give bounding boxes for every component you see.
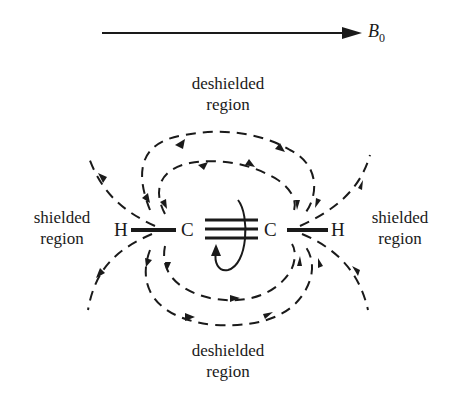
b0-arrow-icon: [102, 27, 362, 39]
b0-label: B0: [368, 21, 385, 46]
b0-subscript: 0: [379, 31, 385, 45]
region-label-right: shielded region: [360, 207, 440, 249]
region-top-line2: region: [178, 94, 278, 115]
region-bottom-line1: deshielded: [178, 340, 278, 361]
b0-symbol: B: [368, 21, 379, 41]
electron-circulation-icon: [211, 200, 245, 270]
atom-c-left: C: [181, 220, 194, 240]
region-label-bottom: deshielded region: [178, 340, 278, 382]
atom-c-right: C: [264, 220, 277, 240]
region-label-left: shielded region: [22, 207, 102, 249]
atom-h-right: H: [331, 220, 345, 240]
region-left-line2: region: [22, 228, 102, 249]
triple-bond: [205, 220, 258, 238]
region-bottom-line2: region: [178, 361, 278, 382]
region-left-line1: shielded: [22, 207, 102, 228]
acetylene-anisotropy-diagram: B0 deshielded region deshielded region s…: [0, 0, 456, 405]
region-right-line2: region: [360, 228, 440, 249]
region-right-line1: shielded: [360, 207, 440, 228]
atom-h-left: H: [114, 220, 128, 240]
region-label-top: deshielded region: [178, 73, 278, 115]
region-top-line1: deshielded: [178, 73, 278, 94]
